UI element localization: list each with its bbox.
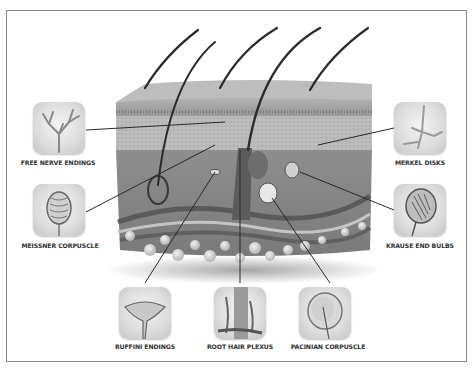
- merkel-disks-card: [394, 102, 446, 154]
- pacinian-receptor: [259, 183, 277, 203]
- root-hair-plexus-icon: [214, 287, 266, 339]
- merkel-disks-icon: [394, 102, 446, 154]
- free-nerve-endings-card: [33, 102, 85, 154]
- sebaceous-gland: [248, 151, 268, 179]
- ruffini-endings-icon: [119, 287, 171, 339]
- ruffini-endings-label: RUFFINI ENDINGS: [115, 343, 175, 350]
- meissner-corpuscle-label: MEISSNER CORPUSCLE: [21, 242, 98, 249]
- merkel-disks-label: MERKEL DISKS: [395, 159, 445, 166]
- ruffini-endings-card: [119, 287, 171, 339]
- krause-end-bulbs-icon: [394, 184, 446, 236]
- meissner-corpuscle-card: [33, 184, 85, 236]
- root-hair-plexus-card: [214, 287, 266, 339]
- krause-end-bulbs-label: KRAUSE END BULBS: [386, 242, 454, 249]
- krause-end-bulbs-card: [394, 184, 446, 236]
- krause-receptor: [285, 162, 299, 178]
- free-nerve-endings-icon: [33, 102, 85, 154]
- epidermis-layer: [116, 110, 372, 116]
- free-nerve-endings-label: FREE NERVE ENDINGS: [21, 159, 96, 166]
- pacinian-corpuscle-icon: [299, 287, 351, 339]
- pacinian-corpuscle-label: PACINIAN CORPUSCLE: [291, 343, 366, 350]
- pacinian-corpuscle-card: [299, 287, 351, 339]
- meissner-corpuscle-icon: [33, 184, 85, 236]
- root-hair-plexus-label: ROOT HAIR PLEXUS: [207, 343, 273, 350]
